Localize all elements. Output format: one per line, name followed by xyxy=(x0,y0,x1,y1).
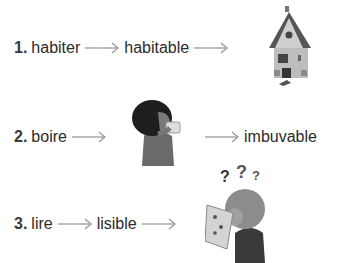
item-number: 1. xyxy=(14,39,27,57)
child-reading-confused-icon xyxy=(205,183,275,263)
row-2: 2. boire xyxy=(14,128,111,146)
arrow-icon xyxy=(57,218,93,230)
row-1: 1. habiter habitable xyxy=(14,39,233,57)
derived-word: lisible xyxy=(97,215,137,233)
row-2-derived: imbuvable xyxy=(200,128,317,146)
arrow-icon xyxy=(193,42,229,54)
base-word: lire xyxy=(31,215,52,233)
row-3: 3. lire lisible xyxy=(14,215,181,233)
derived-word: habitable xyxy=(124,39,189,57)
base-word: habiter xyxy=(31,39,80,57)
arrow-icon xyxy=(141,218,177,230)
house-icon xyxy=(265,4,315,90)
item-number: 2. xyxy=(14,128,27,146)
arrow-icon xyxy=(84,42,120,54)
arrow-icon xyxy=(204,131,240,143)
arrow-icon xyxy=(71,131,107,143)
child-drinking-icon xyxy=(128,98,190,170)
base-word: boire xyxy=(31,128,67,146)
item-number: 3. xyxy=(14,215,27,233)
derived-word: imbuvable xyxy=(244,128,317,146)
